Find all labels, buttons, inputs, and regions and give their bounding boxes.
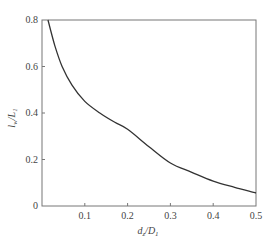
chart-canvas: 0 0.2 0.4 0.6 0.8 0.1 0.2 0.3 0.4 0.5 dz…	[0, 0, 277, 240]
x-tick-0-3: 0.3	[164, 210, 177, 221]
y-axis-label: lw/L1	[6, 108, 19, 127]
x-tick-0-5: 0.5	[250, 210, 263, 221]
data-curve	[48, 20, 256, 193]
x-axis-label: dz/D1	[137, 225, 158, 238]
y-tick-0-8: 0.8	[26, 14, 39, 25]
y-tick-0-6: 0.6	[26, 61, 39, 72]
y-tick-0-2: 0.2	[26, 154, 39, 165]
plot-frame	[42, 20, 256, 206]
y-tick-0: 0	[33, 200, 38, 211]
x-tick-0-4: 0.4	[207, 210, 220, 221]
y-tick-0-4: 0.4	[26, 107, 39, 118]
x-tick-0-2: 0.2	[121, 210, 134, 221]
x-tick-0-1: 0.1	[79, 210, 92, 221]
